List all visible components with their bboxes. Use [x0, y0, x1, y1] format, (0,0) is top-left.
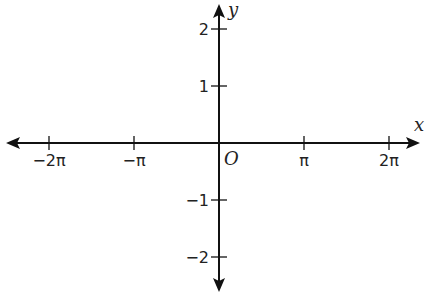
labels: −2π−ππ2π21−1−2xyO: [32, 0, 424, 267]
x-tick-label: 2π: [379, 151, 399, 170]
origin-label: O: [224, 148, 239, 169]
x-axis-label: x: [414, 114, 424, 135]
x-tick-label: −2π: [32, 151, 66, 170]
chart-plot: −2π−ππ2π21−1−2xyO: [0, 0, 435, 300]
y-tick-label: 1: [199, 77, 209, 96]
y-tick-label: 2: [199, 20, 209, 39]
y-tick-label: −2: [185, 248, 209, 267]
x-tick-label: π: [299, 151, 309, 170]
axes: [6, 4, 420, 292]
x-tick-label: −π: [122, 151, 145, 170]
y-tick-label: −1: [185, 191, 209, 210]
y-axis-label: y: [227, 0, 239, 20]
